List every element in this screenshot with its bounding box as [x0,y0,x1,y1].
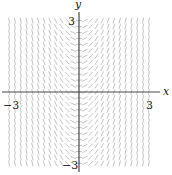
slope-segment [20,30,21,35]
slope-segment [143,95,144,100]
slope-segment [89,54,93,58]
slope-segment [20,119,21,124]
slope-segment [143,60,144,65]
slope-segment [113,143,115,148]
slope-segment [95,114,98,118]
slope-segment [113,101,115,106]
slope-segment [89,132,93,136]
slope-segment [60,102,63,106]
slope-segment [107,24,109,29]
slope-segment [137,36,138,41]
slope-segment [95,30,98,34]
slope-segment [95,120,98,124]
slope-segment [32,161,33,166]
slope-segment [49,101,51,106]
slope-segment [148,60,149,65]
slope-segment [38,161,39,166]
slope-segment [143,119,144,124]
slope-segment [89,84,93,88]
slope-segment [32,24,33,29]
slope-segment [14,149,15,154]
slope-segment [55,60,57,65]
slope-segment [95,155,98,159]
slope-segment [49,113,51,118]
slope-segment [125,72,126,77]
slope-segment [143,30,144,35]
slope-segment [14,155,15,160]
slope-segment [49,24,51,29]
slope-segment [131,24,132,29]
slope-segment [148,78,149,83]
slope-segment [71,109,76,111]
slope-segment [55,108,57,113]
slope-segment [55,137,57,142]
slope-segment [113,42,115,47]
slope-segment [95,126,98,130]
slope-segment [131,125,132,130]
slope-segment [66,150,70,154]
slope-segment [71,73,76,75]
slope-segment [95,131,98,135]
slope-segment [95,60,98,64]
slope-segment [89,126,93,130]
slope-segment [113,95,115,100]
slope-segment [43,60,45,65]
slope-segment [71,150,76,152]
slope-segment [131,72,132,77]
slope-segment [66,84,70,88]
slope-segment [101,131,103,136]
slope-segment [89,66,93,70]
slope-segment [125,84,126,89]
slope-segment [143,107,144,112]
slope-segment [38,54,39,59]
slope-segment [60,96,63,100]
slope-segment [43,95,45,100]
slope-segment [101,137,103,142]
slope-segment [137,155,138,160]
slope-segment [14,131,15,136]
y-tick-max: 3 [68,15,75,28]
slope-segment [71,132,76,134]
slope-segment [148,143,149,148]
slope-segment [131,78,132,83]
slope-segment [38,48,39,53]
slope-segment [71,144,76,146]
slope-segment [101,108,103,113]
slope-segment [55,24,57,29]
slope-segment [107,149,109,154]
slope-segment [125,54,126,59]
slope-segment [131,84,132,89]
slope-segment [107,18,109,23]
slope-segment [107,107,109,112]
slope-segment [131,36,132,41]
slope-segment [14,137,15,142]
slope-segment [55,96,57,101]
slope-field-plot: x y −3 3 3 −3 [0,0,172,175]
slope-segment [9,30,10,35]
slope-segment [143,83,144,88]
slope-segment [137,42,138,47]
slope-segment [26,54,27,59]
slope-segment [20,84,21,89]
slope-segment [49,131,51,136]
slope-segment [119,149,120,154]
slope-segment [55,66,57,71]
slope-segment [137,113,138,118]
slope-segment [89,156,93,160]
slope-segment [83,19,88,21]
slope-segment [55,48,57,53]
y-axis-label: y [74,0,82,11]
slope-segment [143,66,144,71]
slope-segment [38,143,39,148]
slope-segment [131,131,132,136]
slope-segment [38,66,39,71]
slope-segment [101,161,103,166]
slope-segment [32,131,33,136]
slope-segment [43,66,45,71]
slope-segment [83,121,88,123]
slope-segment [107,137,109,142]
slope-segment [125,101,126,106]
slope-segment [32,101,33,106]
slope-segment [20,66,21,71]
slope-segment [119,119,120,124]
